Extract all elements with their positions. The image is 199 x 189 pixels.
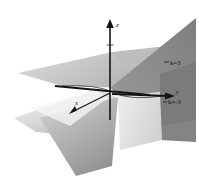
- figure-container: z y x k=3 k=-3: [0, 0, 199, 189]
- level-label-k-negative: k=-3: [168, 99, 180, 106]
- saddle-surface-lower-right-lobe: [118, 92, 162, 150]
- z-axis-arrowhead: [106, 19, 114, 28]
- y-axis-label: y: [176, 89, 179, 96]
- saddle-surface-diagram: [0, 0, 199, 189]
- x-axis-label: x: [75, 100, 78, 107]
- z-axis-label: z: [116, 22, 119, 29]
- level-label-k-positive: k=3: [170, 60, 180, 67]
